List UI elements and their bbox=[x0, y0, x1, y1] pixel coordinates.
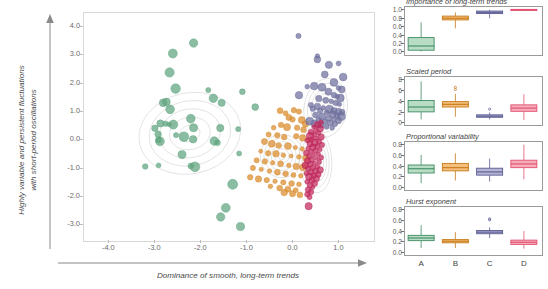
scatter-x-tick: 0.0 bbox=[287, 243, 297, 252]
y-axis-label-line2: with short-period oscillations bbox=[29, 89, 38, 191]
scatter-x-tick-marks bbox=[0, 240, 378, 244]
y-axis-arrow-icon bbox=[44, 14, 56, 249]
boxplot-box-B bbox=[442, 232, 468, 248]
scatter-y-tick: 1.0 bbox=[70, 106, 80, 115]
scatter-y-tickmark bbox=[80, 168, 83, 169]
boxplot-y-tick: 0.0 bbox=[380, 248, 402, 255]
scatter-x-tick-labels: -4.0-3.0-2.0-1.00.01.0 bbox=[0, 243, 378, 255]
scatter-series-C bbox=[295, 33, 347, 130]
scatter-x-tick: -3.0 bbox=[148, 243, 161, 252]
boxplot-x-tick-D: D bbox=[521, 259, 527, 268]
boxplot-y-tick: 0.8 bbox=[380, 206, 402, 213]
scatter-panel: 4.03.02.01.00.0-1.0-2.0-3.0 -4.0-3.0-2.0… bbox=[0, 0, 378, 289]
scatter-x-tick: -2.0 bbox=[194, 243, 207, 252]
boxplot-y-tick: 0.2 bbox=[380, 238, 402, 245]
scatter-y-tickmark bbox=[80, 224, 83, 225]
scatter-y-tickmark bbox=[80, 26, 83, 27]
scatter-x-tickmark bbox=[338, 240, 339, 243]
scatter-y-tick: 2.0 bbox=[70, 78, 80, 87]
scatter-x-tick: 1.0 bbox=[333, 243, 343, 252]
figure-root: 4.03.02.01.00.0-1.0-2.0-3.0 -4.0-3.0-2.0… bbox=[0, 0, 548, 289]
scatter-y-tick: -1.0 bbox=[67, 163, 80, 172]
boxplot-title: Hurst exponent bbox=[406, 197, 456, 206]
scatter-y-tick: 0.0 bbox=[70, 134, 80, 143]
scatter-x-tickmark bbox=[246, 240, 247, 243]
scatter-x-tick: -4.0 bbox=[102, 243, 115, 252]
scatter-plot-area bbox=[83, 12, 375, 242]
boxplot-svg bbox=[404, 206, 541, 254]
scatter-y-tick: 4.0 bbox=[70, 21, 80, 30]
boxplot-x-tick-A: A bbox=[418, 259, 423, 268]
x-axis-arrow-icon bbox=[58, 258, 368, 268]
x-axis-label: Dominance of smooth, long-term trends bbox=[83, 271, 373, 280]
scatter-y-tick: -2.0 bbox=[67, 191, 80, 200]
scatter-x-tickmark bbox=[292, 240, 293, 243]
y-axis-label: Highly variable and persistent fluctuati… bbox=[16, 20, 40, 260]
scatter-svg bbox=[84, 13, 374, 241]
scatter-y-tick: -3.0 bbox=[67, 219, 80, 228]
boxplot-panel-4: Hurst exponent0.80.60.40.20.0ABCD bbox=[378, 0, 548, 289]
scatter-y-tickmark bbox=[80, 139, 83, 140]
scatter-x-tick: -1.0 bbox=[240, 243, 253, 252]
scatter-series-D bbox=[302, 120, 325, 210]
scatter-x-tickmark bbox=[200, 240, 201, 243]
boxplot-box-C bbox=[477, 218, 503, 238]
scatter-x-tickmark bbox=[108, 240, 109, 243]
scatter-y-tickmark bbox=[80, 83, 83, 84]
scatter-y-tickmark bbox=[80, 54, 83, 55]
y-axis-label-line1: Highly variable and persistent fluctuati… bbox=[17, 65, 26, 214]
scatter-series-B bbox=[247, 107, 311, 197]
scatter-y-tickmark bbox=[80, 111, 83, 112]
boxplot-box-A bbox=[408, 225, 434, 248]
boxplot-y-tick: 0.6 bbox=[380, 216, 402, 223]
boxplot-box-D bbox=[511, 231, 537, 249]
boxplot-y-tick: 0.4 bbox=[380, 227, 402, 234]
boxplot-x-tick-B: B bbox=[453, 259, 458, 268]
scatter-x-tickmark bbox=[154, 240, 155, 243]
scatter-series-A bbox=[142, 39, 258, 231]
scatter-y-tickmark bbox=[80, 196, 83, 197]
scatter-y-tick: 3.0 bbox=[70, 49, 80, 58]
boxplot-x-tick-C: C bbox=[487, 259, 493, 268]
